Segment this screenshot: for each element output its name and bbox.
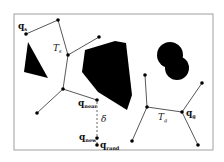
node-q-s: [24, 32, 28, 36]
label-q-rand: qrand: [100, 140, 120, 151]
node: [66, 53, 70, 57]
node: [145, 105, 149, 109]
node-q-g: [180, 110, 184, 114]
label-q-near: qnear: [78, 98, 97, 109]
label-q-s: qs: [18, 21, 27, 32]
label-q-g: qg: [186, 108, 196, 120]
node: [143, 73, 147, 77]
obstacle-circle-bottom: [165, 56, 189, 80]
obstacle-triangle: [24, 42, 48, 78]
label-delta: δ: [101, 114, 106, 124]
node: [56, 18, 60, 22]
label-q-new: qnew: [79, 132, 97, 143]
node: [196, 143, 200, 147]
node: [130, 139, 134, 143]
label-T-g: Tg: [158, 112, 167, 124]
label-T-s: Ts: [53, 43, 62, 54]
node: [35, 111, 39, 115]
obstacle-polygon: [82, 41, 132, 110]
node: [61, 87, 65, 91]
node-q-near: [95, 98, 99, 102]
node-q-rand: [95, 143, 99, 147]
rrt-diagram: qs Ts qnear δ qnew qrand Tg qg: [0, 0, 224, 162]
node: [97, 35, 101, 39]
node: [200, 81, 204, 85]
